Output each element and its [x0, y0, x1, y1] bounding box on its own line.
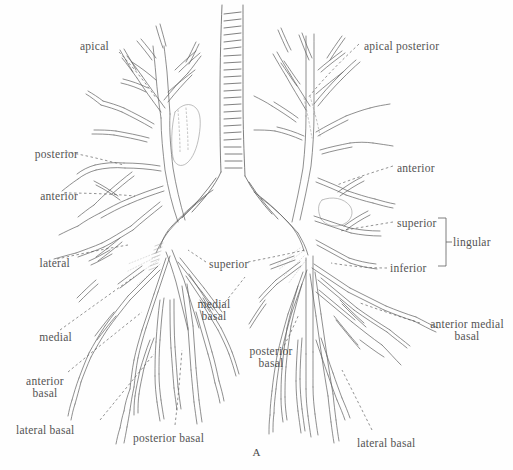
figure-letter: A [0, 446, 513, 458]
left-lung-bronchi [249, 28, 438, 443]
label-superior-right: superior [397, 217, 437, 229]
label-posterior-left: posterior [0, 148, 78, 160]
leader-lines-right [308, 44, 420, 430]
anatomical-figure: apical posterior anterior lateral medial… [0, 0, 513, 470]
label-lingular: lingular [453, 236, 491, 248]
right-lung-bronchi [54, 24, 239, 444]
label-anterior-medial-basal: anterior medial basal [422, 318, 512, 342]
label-medial-basal: medial basal [188, 298, 240, 322]
label-lateral-basal-left: lateral basal [16, 424, 74, 436]
label-lateral-left: lateral [0, 257, 70, 269]
label-superior-center: superior [209, 258, 249, 270]
label-posterior-basal-center: posterior basal [240, 345, 302, 369]
label-anterior-left: anterior [0, 190, 78, 202]
label-anterior-basal-left: anterior basal [10, 375, 80, 399]
lingular-bracket [438, 218, 452, 266]
bronchial-tree-illustration [0, 0, 513, 470]
label-posterior-basal-bottom: posterior basal [133, 432, 204, 444]
label-medial-left: medial [0, 331, 72, 343]
label-anterior-right: anterior [397, 162, 435, 174]
label-apical-posterior: apical posterior [364, 40, 439, 52]
label-apical: apical [80, 40, 109, 52]
label-inferior-right: inferior [390, 262, 426, 274]
trachea-group [182, 5, 278, 219]
